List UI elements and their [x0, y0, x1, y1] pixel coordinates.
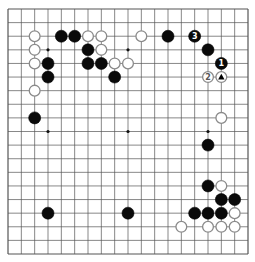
white-stone[interactable]: 2: [203, 72, 214, 83]
black-stone-disc: [189, 207, 201, 219]
white-stone[interactable]: [216, 112, 227, 123]
black-stone-disc: [215, 207, 227, 219]
black-stone[interactable]: [42, 57, 54, 69]
white-stone-disc: [109, 58, 120, 69]
black-stone-disc: [42, 207, 54, 219]
star-point: [206, 130, 209, 133]
black-stone-disc: [29, 112, 41, 124]
white-stone-disc: [216, 112, 227, 123]
white-stone[interactable]: [229, 221, 240, 232]
star-point: [126, 130, 129, 133]
star-point: [46, 130, 49, 133]
black-stone[interactable]: [202, 44, 214, 56]
black-stone[interactable]: [69, 30, 81, 42]
black-stone[interactable]: [29, 112, 41, 124]
black-stone[interactable]: 3: [189, 30, 201, 42]
black-stone-disc: [229, 194, 241, 206]
white-stone-disc: [123, 58, 134, 69]
black-stone-disc: [202, 207, 214, 219]
black-stone[interactable]: [122, 207, 134, 219]
black-stone[interactable]: [95, 57, 107, 69]
black-stone[interactable]: [189, 207, 201, 219]
go-board[interactable]: 312: [0, 0, 255, 262]
black-stone[interactable]: [202, 139, 214, 151]
black-stone-disc: [42, 71, 54, 83]
black-stone-disc: [202, 180, 214, 192]
black-stone-disc: [69, 30, 81, 42]
white-stone[interactable]: [83, 31, 94, 42]
black-stone-disc: [202, 139, 214, 151]
black-stone[interactable]: [215, 194, 227, 206]
black-stone-disc: [202, 44, 214, 56]
black-stone[interactable]: [202, 180, 214, 192]
white-stone-disc: [229, 221, 240, 232]
white-stone-disc: [229, 208, 240, 219]
white-stone[interactable]: [29, 44, 40, 55]
white-stone[interactable]: [216, 181, 227, 192]
white-stone[interactable]: [216, 221, 227, 232]
white-stone-disc: [29, 58, 40, 69]
white-stone[interactable]: [29, 58, 40, 69]
white-stone[interactable]: [109, 58, 120, 69]
black-stone-disc: [82, 44, 94, 56]
black-stone-disc: [109, 71, 121, 83]
black-stone-disc: [55, 30, 67, 42]
black-stone[interactable]: [215, 207, 227, 219]
black-stone-disc: [42, 57, 54, 69]
black-stone[interactable]: [109, 71, 121, 83]
black-stone[interactable]: 1: [215, 57, 227, 69]
black-stone[interactable]: [82, 57, 94, 69]
white-stone[interactable]: [229, 208, 240, 219]
white-stone[interactable]: [136, 31, 147, 42]
star-point: [126, 48, 129, 51]
white-stone-disc: [29, 31, 40, 42]
star-point: [46, 48, 49, 51]
white-stone-disc: [96, 31, 107, 42]
white-stone-disc: [96, 44, 107, 55]
white-stone-disc: [29, 44, 40, 55]
move-number-label: 3: [192, 32, 198, 41]
white-stone[interactable]: [123, 58, 134, 69]
black-stone[interactable]: [55, 30, 67, 42]
black-stone[interactable]: [42, 71, 54, 83]
white-stone[interactable]: [96, 44, 107, 55]
black-stone-disc: [122, 207, 134, 219]
black-stone-disc: [95, 57, 107, 69]
black-stone[interactable]: [82, 44, 94, 56]
white-stone[interactable]: [216, 72, 227, 83]
white-stone[interactable]: [29, 31, 40, 42]
move-number-label: 1: [219, 59, 225, 68]
move-number-label: 2: [205, 73, 211, 82]
black-stone[interactable]: [229, 194, 241, 206]
black-stone-disc: [215, 194, 227, 206]
white-stone[interactable]: [203, 221, 214, 232]
white-stone-disc: [216, 181, 227, 192]
white-stone-disc: [203, 221, 214, 232]
white-stone[interactable]: [176, 221, 187, 232]
black-stone-disc: [82, 57, 94, 69]
white-stone[interactable]: [96, 31, 107, 42]
white-stone-disc: [176, 221, 187, 232]
black-stone[interactable]: [162, 30, 174, 42]
white-stone-disc: [29, 85, 40, 96]
black-stone[interactable]: [202, 207, 214, 219]
white-stone-disc: [136, 31, 147, 42]
black-stone[interactable]: [42, 207, 54, 219]
white-stone-disc: [83, 31, 94, 42]
white-stone-disc: [216, 221, 227, 232]
white-stone[interactable]: [29, 85, 40, 96]
black-stone-disc: [162, 30, 174, 42]
